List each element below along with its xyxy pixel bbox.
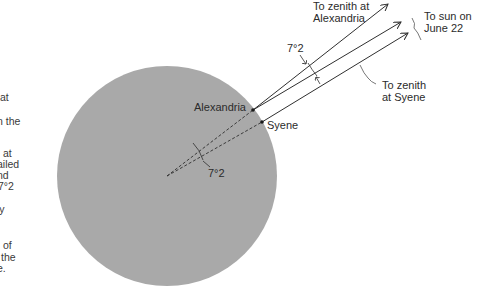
label-angle-top: 7°2 — [287, 42, 304, 54]
label-zenith-alexandria: To zenith at Alexandria — [313, 0, 369, 24]
angle-pointer-top-2 — [316, 77, 320, 84]
angle-pointer-top — [300, 55, 306, 64]
label-sun-line1: To sun on — [424, 10, 472, 22]
label-sun-line2: June 22 — [424, 22, 472, 34]
label-angle-center: 7°2 — [208, 167, 225, 179]
sun-ray-alexandria-arrow — [253, 22, 401, 110]
sun-brace — [412, 18, 421, 40]
syene-leader — [360, 65, 376, 84]
syene-point — [260, 120, 264, 124]
label-zenith-syene-line1: To zenith — [382, 79, 426, 91]
label-zenith-alexandria-line1: To zenith at — [313, 0, 369, 12]
side-text-6: ly — [0, 204, 5, 215]
eratosthenes-diagram — [0, 0, 479, 308]
label-alexandria: Alexandria — [194, 101, 246, 113]
label-syene: Syene — [267, 119, 298, 131]
label-zenith-syene-line2: at Syene — [382, 91, 426, 103]
alexandria-point — [251, 108, 255, 112]
side-text-7: of — [3, 240, 12, 251]
side-text-1: n the — [0, 116, 20, 127]
label-zenith-syene: To zenith at Syene — [382, 79, 426, 103]
side-text-9: e. — [0, 263, 6, 274]
side-text-0: at — [0, 92, 9, 103]
label-sun: To sun on June 22 — [424, 10, 472, 34]
side-text-5: 7°2 — [0, 181, 14, 192]
label-zenith-alexandria-line2: Alexandria — [313, 12, 369, 24]
sun-ray-syene-arrow — [262, 33, 408, 122]
